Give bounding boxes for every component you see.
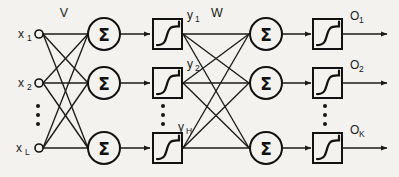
- arrows-hidden-sum-to-activation: [120, 34, 150, 148]
- network-output-base: O: [350, 123, 359, 137]
- connections-hidden-to-output: [183, 34, 249, 148]
- output-activation-box-1: [313, 19, 342, 49]
- arrows-output-sum-to-activation: [282, 34, 311, 148]
- hidden-layer-ellipsis: [161, 104, 165, 126]
- sigma-glyph: Σ: [98, 74, 110, 94]
- input-label-subscript: 2: [27, 82, 32, 92]
- hidden-output-base: y: [178, 120, 184, 134]
- output-sum-node-3: Σ: [250, 132, 282, 164]
- network-output-subscript: 1: [359, 15, 364, 25]
- connections-input-to-hidden: [43, 34, 88, 148]
- hidden-output-label-y1: y 1: [187, 8, 200, 24]
- hidden-activation-box-2: [153, 68, 182, 98]
- hidden-output-subscript: H: [186, 126, 192, 136]
- sigma-glyph: Σ: [260, 139, 272, 159]
- network-output-label-o2: O 2: [350, 58, 364, 74]
- input-label-base: x: [16, 141, 22, 155]
- input-label-x1: x 1: [18, 27, 32, 43]
- weight-label-w: W: [211, 6, 223, 20]
- network-output-base: O: [350, 58, 359, 72]
- sigma-glyph: Σ: [260, 74, 272, 94]
- input-label-base: x: [18, 27, 24, 41]
- input-label-base: x: [18, 76, 24, 90]
- neural-network-diagram: Σ Σ Σ: [0, 0, 399, 177]
- sigma-glyph: Σ: [98, 139, 110, 159]
- input-node-xL: [35, 144, 43, 152]
- network-output-subscript: K: [359, 129, 365, 139]
- input-node-x1: [35, 30, 43, 38]
- input-label-xL: x L: [16, 141, 30, 157]
- hidden-activation-box-3: [153, 133, 182, 163]
- sigma-glyph: Σ: [98, 25, 110, 45]
- input-node-x2: [35, 79, 43, 87]
- hidden-output-label-yH: y H: [178, 120, 192, 136]
- weight-label-v: V: [60, 6, 69, 20]
- network-output-subscript: 2: [359, 64, 364, 74]
- input-label-subscript: L: [25, 147, 30, 157]
- output-sum-node-2: Σ: [250, 67, 282, 99]
- output-sum-node-1: Σ: [250, 18, 282, 50]
- hidden-output-subscript: 2: [195, 63, 200, 73]
- output-activation-box-2: [313, 68, 342, 98]
- hidden-sum-node-2: Σ: [88, 67, 120, 99]
- network-output-label-o1: O 1: [350, 9, 364, 25]
- hidden-output-subscript: 1: [195, 14, 200, 24]
- hidden-activation-box-1: [153, 19, 182, 49]
- sigma-glyph: Σ: [260, 25, 272, 45]
- input-layer-ellipsis: [36, 104, 40, 126]
- output-activation-box-3: [313, 133, 342, 163]
- hidden-output-base: y: [187, 8, 193, 22]
- input-label-subscript: 1: [27, 33, 32, 43]
- network-output-base: O: [350, 9, 359, 23]
- network-output-label-oK: O K: [350, 123, 365, 139]
- output-layer-ellipsis: [323, 104, 327, 126]
- hidden-output-base: y: [187, 57, 193, 71]
- input-label-x2: x 2: [18, 76, 32, 92]
- hidden-sum-node-3: Σ: [88, 132, 120, 164]
- hidden-sum-node-1: Σ: [88, 18, 120, 50]
